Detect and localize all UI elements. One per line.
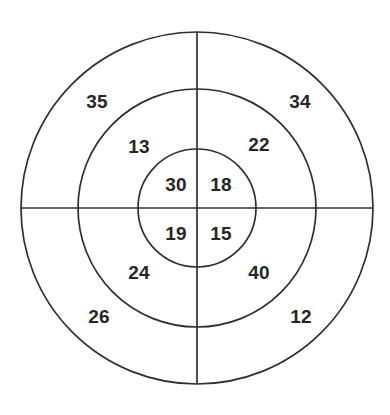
inner-lower-left-value: 19 — [165, 224, 187, 243]
inner-upper-right-value: 18 — [210, 175, 232, 194]
middle-lower-left-value: 24 — [128, 263, 150, 282]
inner-upper-left-value: 30 — [165, 175, 187, 194]
middle-upper-left-value: 13 — [128, 137, 150, 156]
outer-lower-right-value: 12 — [290, 307, 312, 326]
middle-upper-right-value: 22 — [248, 135, 270, 154]
outer-upper-right-value: 34 — [289, 92, 311, 111]
outer-lower-left-value: 26 — [88, 307, 110, 326]
middle-lower-right-value: 40 — [248, 263, 270, 282]
inner-lower-right-value: 15 — [210, 224, 232, 243]
concentric-target-diagram: 35 34 26 12 13 22 24 40 30 18 19 15 — [0, 0, 390, 415]
target-rings-svg — [0, 0, 390, 415]
outer-upper-left-value: 35 — [86, 92, 108, 111]
